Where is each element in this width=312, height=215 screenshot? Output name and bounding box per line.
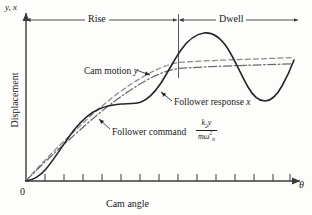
y-axis-symbol-label: y, x: [5, 3, 17, 12]
formula-omega-subscript: n: [212, 137, 215, 143]
follower-response-symbol: x: [246, 97, 250, 107]
x-axis-title: Cam angle: [106, 199, 149, 209]
formula-y: y: [208, 118, 212, 127]
follower-command-curve: [26, 64, 292, 181]
cam-motion-annotation: Cam motion y: [84, 67, 138, 77]
formula-omega-superscript: 2: [209, 130, 212, 136]
y-axis-title: Displacement: [10, 60, 20, 140]
cam-follower-displacement-figure: y, x θ 0 Displacement Cam angle Rise Dwe…: [0, 0, 312, 215]
follower-response-text: Follower response: [174, 97, 246, 107]
follower-command-formula: k2y mω2n: [196, 119, 217, 143]
x-axis-symbol-label: θ: [299, 180, 304, 190]
cam-motion-curve: [26, 58, 292, 181]
formula-numerator: k2y: [196, 119, 217, 129]
plot-area: [0, 0, 312, 215]
cam-motion-pointer: [136, 70, 150, 75]
follower-response-curve: [26, 33, 294, 181]
follower-response-pointer: [161, 92, 172, 101]
cam-motion-text: Cam motion: [84, 66, 134, 76]
dwell-phase-label: Dwell: [216, 14, 246, 24]
follower-command-pointer: [99, 119, 110, 129]
formula-denominator: mω2n: [196, 131, 217, 143]
cam-motion-symbol: y: [134, 66, 138, 76]
x-axis-ticks: [45, 174, 290, 181]
rise-phase-label: Rise: [85, 14, 109, 24]
origin-label: 0: [20, 187, 25, 197]
follower-response-annotation: Follower response x: [174, 98, 251, 108]
follower-command-annotation: Follower command: [112, 128, 186, 138]
